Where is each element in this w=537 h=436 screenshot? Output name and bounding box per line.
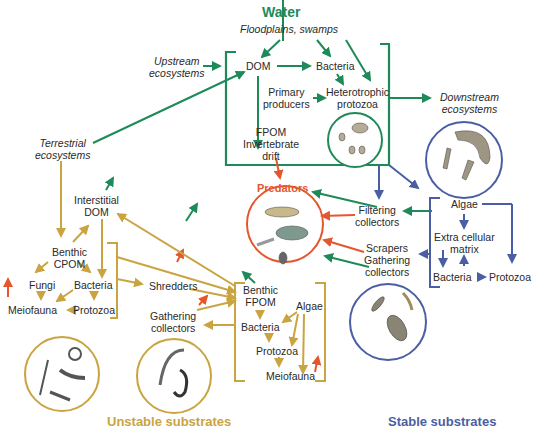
upstream-line2: ecosystems	[149, 67, 204, 79]
fpom-algae-label: Algae	[296, 300, 323, 312]
fd-line1: FPOM	[243, 126, 299, 138]
meiofauna-label: Meiofauna	[8, 304, 57, 316]
interstitial-dom-label: Interstitial DOM	[74, 194, 119, 218]
stable-title: Stable substrates	[388, 414, 496, 429]
water-bacteria-label: Bacteria	[316, 60, 355, 72]
bc-line2: CPOM	[52, 258, 87, 270]
pp-line1: Primary	[263, 86, 310, 98]
bc-line1: Benthic	[52, 246, 87, 258]
ugc-line1: Gathering	[150, 310, 196, 322]
floodplains-label: Floodplains, swamps	[240, 23, 338, 35]
shredders-label: Shredders	[149, 280, 197, 292]
filtering-collectors-label: Filtering collectors	[355, 204, 399, 228]
stable-protozoa-label: Protozoa	[489, 271, 531, 283]
stable-algae-label: Algae	[451, 198, 478, 210]
upstream-label: Upstream ecosystems	[149, 55, 204, 79]
pp-line2: producers	[263, 98, 310, 110]
downstream-label: Downstream ecosystems	[440, 91, 499, 115]
fpom-bacteria-label: Bacteria	[241, 321, 280, 333]
predators-illustration	[247, 186, 323, 262]
fc-line2: collectors	[355, 216, 399, 228]
id-line2: DOM	[74, 206, 119, 218]
unstable-illustration-2	[137, 339, 211, 413]
water-title: Water	[262, 4, 300, 20]
unstable-illustration-1	[25, 337, 99, 411]
stable-bacteria-label: Bacteria	[433, 271, 472, 283]
scrapers-gathering-label: Scrapers Gathering collectors	[364, 242, 410, 278]
ecm-line1: Extra cellular	[434, 231, 495, 243]
unstable-title: Unstable substrates	[107, 414, 231, 429]
hp-line2: protozoa	[326, 98, 389, 110]
terr-line2: ecosystems	[35, 149, 90, 161]
heterotrophic-protozoa-label: Heterotrophic protozoa	[326, 86, 389, 110]
scrapers-line: Scrapers	[364, 242, 410, 254]
fpom-meiofauna-label: Meiofauna	[266, 370, 315, 382]
benthic-fpom-label: Benthic FPOM	[243, 284, 278, 308]
predators-title: Predators	[257, 182, 308, 194]
unstable-gathering-label: Gathering collectors	[150, 310, 196, 334]
fpom-drift-label: FPOM Invertebrate drift	[243, 126, 299, 162]
fc-line1: Filtering	[355, 204, 399, 216]
primary-producers-label: Primary producers	[263, 86, 310, 110]
gc-line1: Gathering	[364, 254, 410, 266]
ds-line1: Downstream	[440, 91, 499, 103]
fpom-protozoa-label: Protozoa	[256, 345, 298, 357]
id-line1: Interstitial	[74, 194, 119, 206]
ds-line2: ecosystems	[440, 103, 499, 115]
fd-line3: drift	[243, 150, 299, 162]
unstable-protozoa-label: Protozoa	[73, 304, 115, 316]
extra-cellular-matrix-label: Extra cellular matrix	[434, 231, 495, 255]
terrestrial-label: Terrestrial ecosystems	[35, 137, 90, 161]
ugc-line2: collectors	[150, 322, 196, 334]
terr-line1: Terrestrial	[35, 137, 90, 149]
fd-line2: Invertebrate	[243, 138, 299, 150]
gc-line2: collectors	[364, 266, 410, 278]
protozoa-illustration	[328, 113, 382, 167]
dom-label: DOM	[246, 60, 271, 72]
bf-line1: Benthic	[243, 284, 278, 296]
unstable-bacteria-label: Bacteria	[74, 279, 113, 291]
benthic-cpom-label: Benthic CPOM	[52, 246, 87, 270]
hp-line1: Heterotrophic	[326, 86, 389, 98]
upstream-line1: Upstream	[149, 55, 204, 67]
ecm-line2: matrix	[434, 243, 495, 255]
bf-line2: FPOM	[243, 296, 278, 308]
fungi-label: Fungi	[29, 279, 55, 291]
